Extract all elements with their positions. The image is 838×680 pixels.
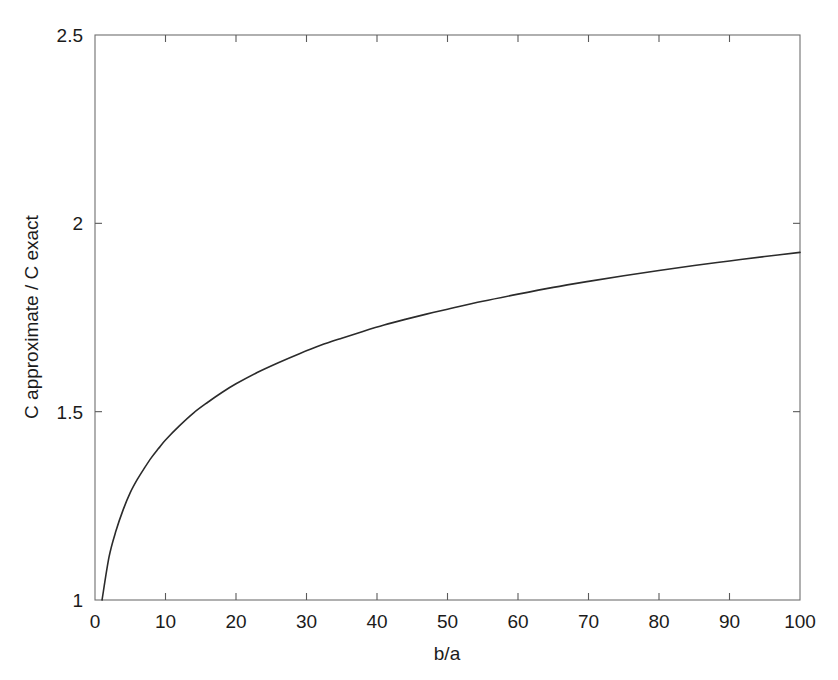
x-axis-ticks-bottom (166, 593, 730, 600)
x-tick-label: 30 (296, 611, 317, 632)
x-tick-label: 90 (719, 611, 740, 632)
x-tick-label: 10 (155, 611, 176, 632)
y-axis-ticks-left (95, 223, 102, 411)
x-axis-tick-labels: 0102030405060708090100 (90, 611, 816, 632)
x-tick-label: 20 (225, 611, 246, 632)
x-tick-label: 70 (578, 611, 599, 632)
x-tick-label: 100 (784, 611, 816, 632)
y-axis-ticks-right (793, 223, 800, 411)
y-tick-label: 2 (72, 213, 83, 234)
y-axis-tick-labels: 11.522.5 (57, 25, 83, 611)
x-tick-label: 80 (648, 611, 669, 632)
data-series-curve (102, 252, 800, 600)
y-tick-label: 1.5 (57, 402, 83, 423)
plot-box-frame (95, 35, 800, 600)
y-tick-label: 2.5 (57, 25, 83, 46)
x-tick-label: 50 (437, 611, 458, 632)
y-tick-label: 1 (72, 590, 83, 611)
x-tick-label: 60 (507, 611, 528, 632)
figure-canvas: 0102030405060708090100 11.522.5 b/a C ap… (0, 0, 838, 680)
x-axis-ticks-top (166, 35, 730, 42)
x-tick-label: 0 (90, 611, 101, 632)
y-axis-title: C approximate / C exact (21, 214, 42, 419)
x-axis-title: b/a (434, 643, 461, 664)
x-tick-label: 40 (366, 611, 387, 632)
line-chart: 0102030405060708090100 11.522.5 b/a C ap… (0, 0, 838, 680)
